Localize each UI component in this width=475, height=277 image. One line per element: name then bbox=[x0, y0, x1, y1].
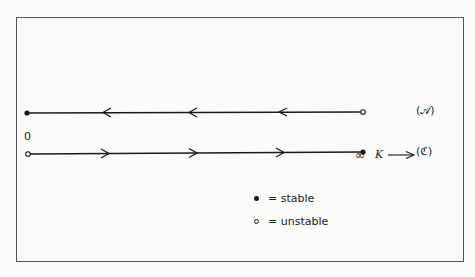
branch-c-label: (ℭ) bbox=[416, 146, 432, 158]
origin-label: 0 bbox=[24, 131, 31, 143]
unstable-point-icon bbox=[361, 110, 366, 115]
unstable-point-icon bbox=[26, 152, 31, 157]
branch-a-line bbox=[27, 112, 362, 113]
branch-c bbox=[29, 148, 362, 158]
filled-dot-icon bbox=[254, 196, 259, 201]
legend-unstable-text: = unstable bbox=[268, 215, 328, 228]
legend-stable: = stable bbox=[254, 192, 314, 205]
parameter-k-label: K bbox=[375, 149, 383, 161]
legend-stable-text: = stable bbox=[268, 192, 314, 205]
legend-unstable: = unstable bbox=[254, 215, 328, 228]
open-dot-icon bbox=[254, 219, 259, 224]
branch-a bbox=[27, 108, 362, 117]
branch-a-label: (𝒜) bbox=[416, 105, 435, 117]
k-direction-arrow-icon bbox=[388, 152, 414, 159]
infinity-label: ∞ bbox=[355, 149, 365, 161]
stable-point-icon bbox=[24, 110, 29, 115]
root-locus-diagram bbox=[0, 0, 475, 277]
